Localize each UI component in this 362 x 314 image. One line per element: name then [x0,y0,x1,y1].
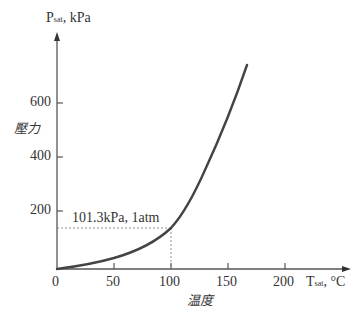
x-axis-arrow-icon [342,266,351,272]
y-tick-label: 600 [30,94,51,110]
saturation-curve [57,65,247,269]
y-axis-arrow-icon [54,32,60,41]
x-tick-label: 100 [159,274,180,290]
y-tick-label: 200 [30,202,51,218]
y-axis-title-cn: 壓力 [14,118,40,137]
x-axis-title: Tsat, °C [306,274,345,290]
x-tick-label: 150 [216,274,237,290]
chart-canvas [0,0,362,314]
x-ticks [114,263,285,269]
x-axis-title-cn: 温度 [187,290,213,309]
y-ticks [57,103,63,211]
x-tick-label: 0 [52,274,59,290]
reference-lines [57,228,171,269]
annotation-label: 101.3kPa, 1atm [72,210,160,226]
y-tick-label: 400 [30,148,51,164]
x-tick-label: 200 [273,274,294,290]
y-axis-title: Psat, kPa [46,10,91,26]
x-tick-label: 50 [106,274,120,290]
